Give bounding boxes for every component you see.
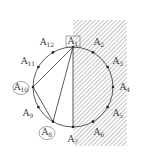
point-A12: A12 bbox=[39, 37, 54, 54]
point-dot bbox=[106, 66, 109, 69]
point-dot bbox=[52, 120, 55, 123]
point-A8: A8 bbox=[39, 120, 55, 139]
point-dot bbox=[106, 106, 109, 109]
point-A10: A10 bbox=[13, 82, 34, 95]
point-dot bbox=[92, 120, 95, 123]
circle-diagram: A1A2A3A4A5A6A7A8A9A10A11A12 bbox=[0, 0, 141, 163]
point-label: A9 bbox=[22, 108, 34, 119]
segment-A10-A8 bbox=[33, 87, 53, 122]
point-dot bbox=[52, 51, 55, 54]
point-A9: A9 bbox=[22, 106, 40, 119]
point-dot bbox=[37, 66, 40, 69]
point-dot bbox=[37, 106, 40, 109]
point-dot bbox=[92, 51, 95, 54]
point-dot bbox=[72, 126, 75, 129]
point-label: A12 bbox=[39, 37, 54, 48]
point-dot bbox=[112, 86, 115, 89]
point-label: A4 bbox=[119, 82, 131, 93]
point-dot bbox=[32, 86, 35, 89]
point-label: A8 bbox=[41, 127, 53, 138]
point-A11: A11 bbox=[20, 56, 40, 68]
point-label: A11 bbox=[20, 56, 35, 67]
segment-A8-A1 bbox=[53, 47, 73, 122]
segments bbox=[33, 47, 73, 127]
